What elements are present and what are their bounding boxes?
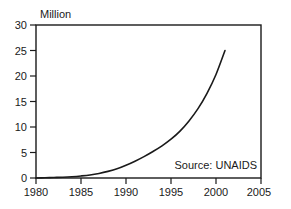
x-tick-label-2005: 2005: [247, 186, 271, 198]
x-tick-label-2000: 2000: [204, 186, 228, 198]
y-tick-label-5: 5: [21, 147, 27, 159]
chart-container: Million 0 5 10 15 20 25 30: [0, 0, 291, 209]
source-annotation: Source: UNAIDS: [174, 159, 257, 171]
line-chart: Million 0 5 10 15 20 25 30: [0, 0, 291, 209]
y-tick-label-20: 20: [15, 70, 27, 82]
y-axis-tick-labels: 0 5 10 15 20 25 30: [15, 19, 27, 184]
y-tick-label-15: 15: [15, 96, 27, 108]
y-axis-title: Million: [40, 8, 71, 20]
x-tick-label-1990: 1990: [114, 186, 138, 198]
y-tick-label-10: 10: [15, 121, 27, 133]
x-tick-label-1980: 1980: [24, 186, 48, 198]
plot-frame: [36, 25, 261, 178]
x-axis-ticks: [36, 178, 261, 184]
y-axis-ticks: [30, 25, 36, 178]
y-tick-label-0: 0: [21, 172, 27, 184]
x-axis-tick-labels: 1980 1985 1990 1995 2000 2005: [24, 186, 271, 198]
y-tick-label-25: 25: [15, 45, 27, 57]
x-tick-label-1995: 1995: [159, 186, 183, 198]
y-tick-label-30: 30: [15, 19, 27, 31]
x-tick-label-1985: 1985: [69, 186, 93, 198]
